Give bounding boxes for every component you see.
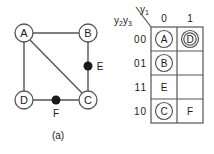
graph-node-b[interactable]: B <box>79 24 97 42</box>
kmap-cell-11-0[interactable]: E <box>161 82 168 93</box>
kmap-cell-label: D <box>186 34 193 45</box>
kmap-cell-label: E <box>161 82 168 93</box>
node-label-d: D <box>20 94 28 106</box>
caption-panel-a: (a) <box>38 130 78 141</box>
kmap-cell-label: B <box>161 58 168 69</box>
dot-label-e: E <box>97 61 104 72</box>
kmap-cell-label: F <box>187 106 193 117</box>
kmap-col-header-1: 1 <box>187 13 193 24</box>
kmap-svg: y1 y2y3 0 1 00 01 11 10 <box>112 0 214 126</box>
dot-marker-e <box>84 62 93 71</box>
kmap-col-variable: y1 <box>140 4 149 16</box>
panel-b-kmap: y1 y2y3 0 1 00 01 11 10 <box>112 0 214 154</box>
graph-node-c[interactable]: C <box>79 91 97 109</box>
node-label-a: A <box>20 27 28 39</box>
kmap-cell-label: C <box>160 106 167 117</box>
graph-node-d[interactable]: D <box>15 91 33 109</box>
graph-svg: A B C D E F <box>0 0 112 126</box>
kmap-row-header-01: 01 <box>134 58 147 69</box>
kmap-row-variables: y2y3 <box>114 15 132 27</box>
edge-a-c <box>30 40 82 93</box>
graph-edges <box>24 33 88 100</box>
kmap-cell-10-1[interactable]: F <box>187 106 193 117</box>
kmap-cell-00-1[interactable]: D <box>182 31 199 48</box>
dot-marker-f <box>52 96 61 105</box>
figure-container: A B C D E F (a) <box>0 0 214 154</box>
dot-label-f: F <box>53 108 59 119</box>
kmap-cell-label: A <box>161 34 168 45</box>
kmap-col-header-0: 0 <box>161 13 167 24</box>
kmap-row-header-00: 00 <box>134 34 147 45</box>
graph-dot-f[interactable]: F <box>52 96 61 119</box>
graph-dot-e[interactable]: E <box>84 61 104 72</box>
node-label-c: C <box>84 94 92 106</box>
panel-a-graph: A B C D E F (a) <box>0 0 112 154</box>
node-label-b: B <box>84 27 91 39</box>
kmap-row-header-11: 11 <box>135 82 147 93</box>
kmap-row-header-10: 10 <box>134 106 147 117</box>
graph-node-a[interactable]: A <box>15 24 33 42</box>
